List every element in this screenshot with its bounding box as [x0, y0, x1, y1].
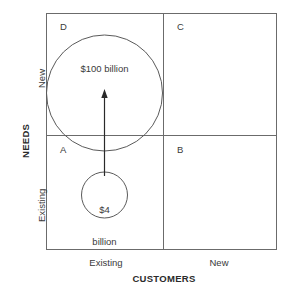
- quadrant-label-d: D: [60, 22, 67, 33]
- quadrant-label-b: B: [177, 145, 183, 156]
- quadrant-label-c: C: [177, 22, 184, 33]
- x-tick-existing: Existing: [82, 258, 130, 269]
- x-axis-title: CUSTOMERS: [116, 274, 212, 285]
- bubble-label-target-market: $100 billion: [69, 64, 140, 75]
- matrix-frame: [47, 14, 277, 250]
- growth-arrow-head: [101, 89, 107, 98]
- y-axis-title: NEEDS: [21, 124, 32, 158]
- quadrant-label-a: A: [60, 145, 66, 156]
- y-tick-existing: Existing: [37, 189, 48, 222]
- bubble-label-current-line1: $4: [82, 205, 127, 216]
- y-tick-new: New: [37, 69, 48, 88]
- x-tick-new: New: [203, 258, 235, 269]
- bubble-label-current-line2: billion: [82, 237, 127, 248]
- figure-canvas: D C A B $100 billion $4 billion New Exis…: [0, 0, 291, 301]
- matrix-diagram: [0, 0, 291, 301]
